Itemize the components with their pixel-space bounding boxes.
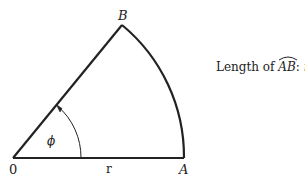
arc-ab (122, 25, 184, 158)
caption-formula: rϕ (304, 60, 305, 74)
angle-arc (58, 106, 82, 158)
point-b-label: B (118, 9, 128, 22)
radius-label: r (106, 163, 112, 175)
sector-diagram (0, 0, 305, 187)
point-a-label: A (179, 163, 188, 176)
arc-hat-icon (278, 55, 298, 61)
caption-prefix: Length of (216, 60, 278, 74)
arc-length-caption: Length of AB: rϕ (216, 60, 305, 74)
caption-colon: : (296, 60, 304, 74)
origin-label: 0 (9, 163, 17, 176)
angle-label: ϕ (47, 135, 55, 147)
arc-name-text: AB (278, 60, 295, 74)
angle-arrow-icon (57, 105, 63, 112)
radius-line-0b (13, 25, 122, 158)
arc-name: AB (278, 60, 295, 74)
